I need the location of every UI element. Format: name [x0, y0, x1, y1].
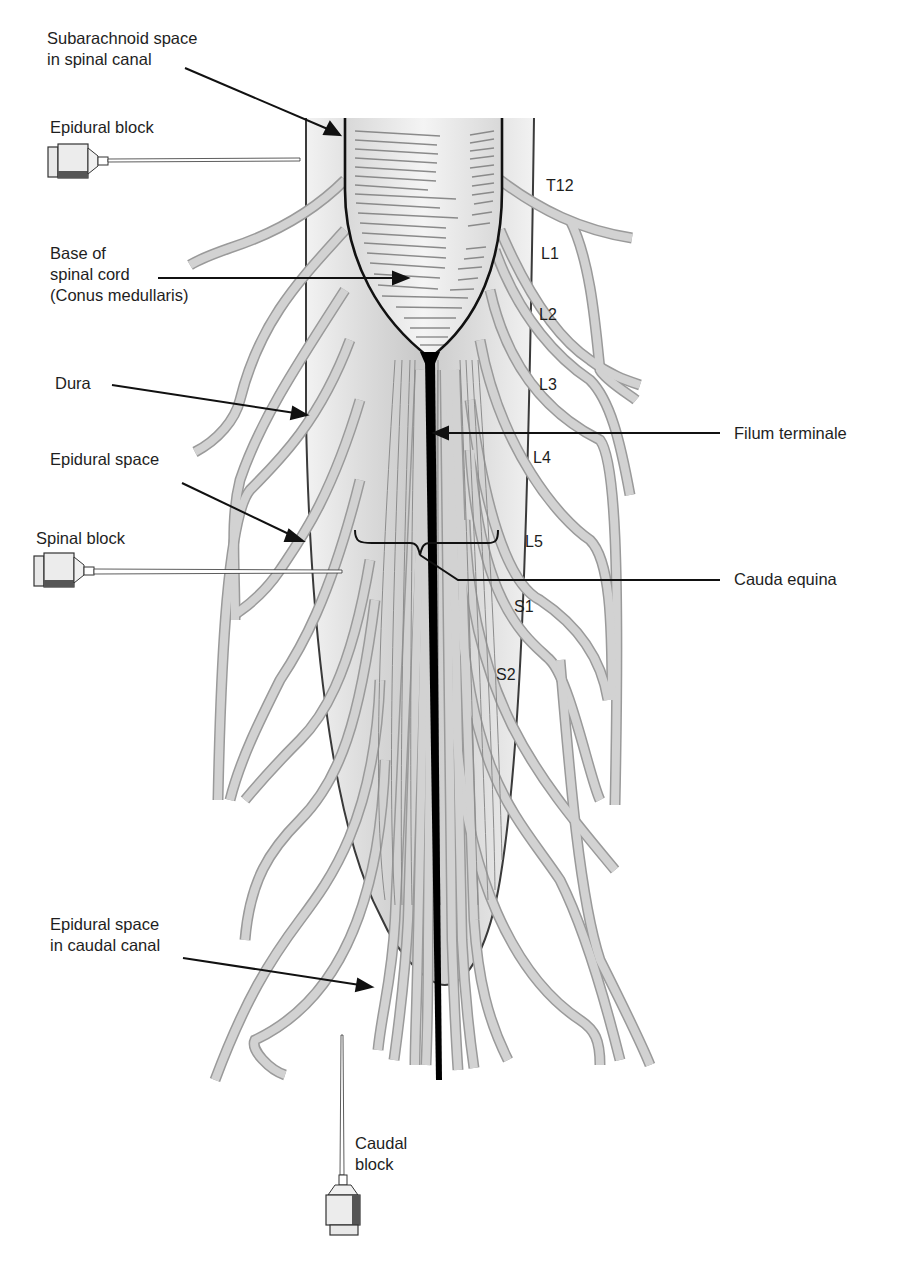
- segment-l2: L2: [539, 306, 557, 324]
- label-cauda-equina: Cauda equina: [734, 569, 837, 590]
- spinal-needle: [34, 553, 342, 587]
- label-subarachnoid-space: Subarachnoid space in spinal canal: [47, 28, 197, 70]
- label-epidural-space: Epidural space: [50, 449, 159, 470]
- label-base-of-spinal-cord: Base of spinal cord (Conus medullaris): [50, 243, 188, 306]
- segment-s1: S1: [514, 598, 534, 616]
- segment-t12: T12: [546, 177, 574, 195]
- spinal-anatomy-diagram: [0, 0, 903, 1262]
- segment-l1: L1: [541, 245, 559, 263]
- label-epidural-block: Epidural block: [50, 117, 154, 138]
- label-caudal-block: Caudal block: [355, 1133, 407, 1175]
- segment-l4: L4: [533, 449, 551, 467]
- segment-s2: S2: [496, 666, 516, 684]
- label-dura: Dura: [55, 373, 91, 394]
- label-epidural-space-caudal: Epidural space in caudal canal: [50, 914, 160, 956]
- label-spinal-block: Spinal block: [36, 528, 125, 549]
- segment-l3: L3: [539, 376, 557, 394]
- label-filum-terminale: Filum terminale: [734, 423, 847, 444]
- epidural-needle: [48, 144, 300, 178]
- segment-l5: L5: [525, 533, 543, 551]
